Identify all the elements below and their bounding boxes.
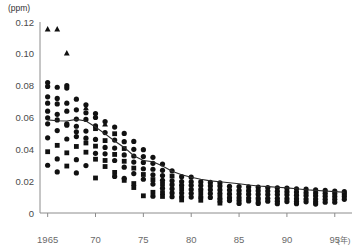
data-point-circle	[112, 124, 117, 129]
y-axis-unit-label: (ppm)	[8, 3, 30, 13]
x-tick-label: 70	[90, 234, 101, 245]
data-point-circle	[141, 177, 146, 182]
y-tick-label: 0.08	[16, 80, 35, 91]
data-point-circle	[131, 171, 136, 176]
y-tick-label: 0.04	[16, 144, 35, 155]
data-point-circle	[150, 194, 155, 199]
data-point-circle	[150, 181, 155, 186]
data-point-circle	[74, 157, 79, 162]
data-point-square	[112, 131, 117, 136]
data-point-circle	[265, 199, 270, 204]
data-point-circle	[112, 174, 117, 179]
data-point-circle	[141, 154, 146, 159]
data-point-square	[122, 159, 127, 164]
data-point-circle	[64, 101, 69, 106]
data-point-circle	[122, 152, 127, 157]
data-point-circle	[74, 124, 79, 129]
data-point-circle	[313, 201, 318, 206]
data-point-circle	[112, 145, 117, 150]
data-point-circle	[93, 151, 98, 156]
data-point-circle	[131, 159, 136, 164]
data-point-circle	[45, 109, 50, 114]
data-point-circle	[83, 128, 88, 133]
data-point-square	[45, 149, 50, 154]
data-point-circle	[169, 194, 174, 199]
data-point-square	[103, 138, 108, 143]
data-point-square	[103, 158, 108, 163]
y-tick-label: 0	[29, 208, 34, 219]
scatter-chart: (ppm) 00.020.040.060.080.100.12 19657075…	[0, 0, 362, 251]
y-tick-label: 0.02	[16, 176, 35, 187]
data-point-circle	[55, 128, 60, 133]
data-point-square	[93, 157, 98, 162]
data-point-square	[74, 144, 79, 149]
data-point-circle	[294, 201, 299, 206]
data-point-circle	[55, 117, 60, 122]
data-point-square	[198, 198, 203, 203]
data-point-square	[93, 144, 98, 149]
y-tick-label: 0.06	[16, 112, 35, 123]
data-point-circle	[150, 167, 155, 172]
data-point-circle	[275, 201, 280, 206]
data-point-circle	[332, 200, 337, 205]
data-point-circle	[74, 107, 79, 112]
data-point-circle	[122, 165, 127, 170]
x-tick-label: 75	[138, 234, 149, 245]
data-point-circle	[64, 109, 69, 114]
data-point-circle	[246, 198, 251, 203]
data-point-circle	[74, 97, 79, 102]
data-point-circle	[208, 195, 213, 200]
data-point-circle	[256, 201, 261, 206]
data-point-circle	[150, 155, 155, 160]
data-point-square	[131, 166, 136, 171]
data-point-circle	[45, 101, 50, 106]
data-point-circle	[93, 115, 98, 120]
data-point-circle	[64, 136, 69, 141]
data-point-circle	[74, 129, 79, 134]
data-point-circle	[189, 194, 194, 199]
data-point-circle	[131, 147, 136, 152]
data-point-circle	[64, 121, 69, 126]
data-point-square	[64, 164, 69, 169]
data-point-circle	[160, 168, 165, 173]
x-tick-label: 80	[186, 234, 197, 245]
data-point-circle	[284, 199, 289, 204]
x-tick-label: 85	[234, 234, 245, 245]
data-point-circle	[122, 131, 127, 136]
data-point-circle	[45, 94, 50, 99]
data-point-square	[151, 177, 156, 182]
data-point-circle	[45, 121, 50, 126]
data-point-circle	[141, 147, 146, 152]
data-point-square	[131, 185, 136, 190]
data-point-circle	[227, 198, 232, 203]
data-point-circle	[236, 201, 241, 206]
x-tick-label: 1965	[37, 234, 58, 245]
data-point-circle	[45, 135, 50, 140]
data-point-square	[122, 178, 127, 183]
data-point-square	[55, 143, 60, 148]
data-point-circle	[55, 112, 60, 117]
data-point-circle	[323, 200, 328, 205]
data-point-circle	[45, 163, 50, 168]
data-point-circle	[55, 169, 60, 174]
data-point-square	[103, 164, 108, 169]
data-point-circle	[55, 96, 60, 101]
data-point-circle	[64, 85, 69, 90]
data-point-square	[84, 141, 89, 146]
data-point-circle	[150, 172, 155, 177]
data-point-circle	[45, 84, 50, 89]
data-point-circle	[55, 85, 60, 90]
data-point-circle	[102, 151, 107, 156]
data-point-square	[141, 172, 146, 177]
data-point-circle	[342, 197, 347, 202]
y-tick-label: 0.10	[16, 48, 35, 59]
data-point-circle	[112, 158, 117, 163]
data-point-circle	[74, 170, 79, 175]
data-point-square	[112, 152, 117, 157]
data-point-square	[84, 150, 89, 155]
data-point-circle	[122, 139, 127, 144]
data-point-square	[160, 194, 165, 199]
data-point-circle	[141, 166, 146, 171]
data-point-circle	[131, 139, 136, 144]
data-point-circle	[160, 186, 165, 191]
